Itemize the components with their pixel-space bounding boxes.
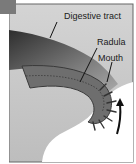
label-radula: Radula <box>97 37 126 47</box>
radula-diagram: Digestive tract Radula Mouth <box>0 0 136 164</box>
diagram-illustration <box>0 0 136 164</box>
label-mouth: Mouth <box>98 53 123 63</box>
label-digestive-tract: Digestive tract <box>64 11 121 21</box>
